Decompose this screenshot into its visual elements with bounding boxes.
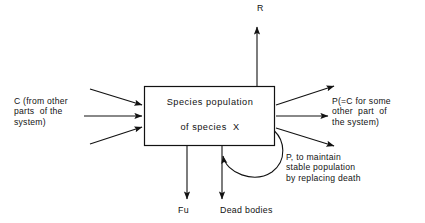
label-fu: Fu [178,205,189,215]
flow-arrow-input-upper [90,89,142,105]
flow-arrow-output-lower [276,128,334,146]
flow-arrow-input-lower [90,127,142,144]
box-label-line1: Species population [160,97,260,107]
label-input-c: C (from other parts of the system) [14,96,68,127]
label-output-p: P(=C for some other part of the system) [332,96,391,127]
flow-arrow-output-upper [276,86,334,105]
species-population-box-outline [145,87,275,146]
label-dead-bodies: Dead bodies [220,205,273,215]
box-label-line2: of species X [160,122,260,132]
label-feedback: P, to maintain stable population by repl… [286,152,361,183]
label-respiration: R [257,3,264,13]
diagram-canvas: Species population of species X C (from … [0,0,425,223]
